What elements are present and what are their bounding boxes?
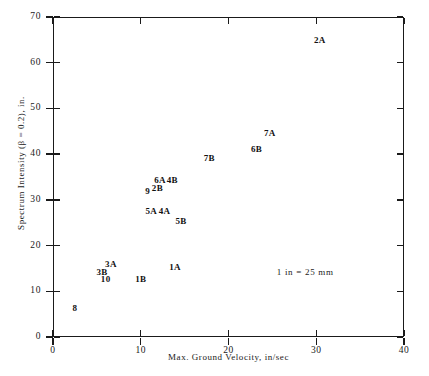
y-tick-mark-right — [397, 153, 403, 154]
data-point-label: 7B — [204, 153, 215, 163]
data-point-label: 9 — [145, 186, 150, 196]
data-point-label: 7A — [264, 128, 276, 138]
x-tick-mark — [52, 338, 53, 345]
y-tick-mark-inner — [54, 62, 60, 63]
y-tick-mark-inner — [54, 16, 60, 17]
x-tick-mark-top — [228, 18, 229, 24]
data-point-label: 8 — [73, 303, 78, 313]
x-tick-mark-top — [140, 18, 141, 24]
y-tick-mark — [46, 291, 53, 292]
y-tick-mark-right — [397, 108, 403, 109]
y-tick-mark — [46, 62, 53, 63]
data-point-label: 1B — [135, 274, 146, 284]
y-tick-mark — [46, 199, 53, 200]
y-tick-mark-inner — [54, 245, 60, 246]
y-tick-mark-right — [397, 62, 403, 63]
data-point-label: 2A — [314, 35, 326, 45]
x-tick-mark-inner — [403, 330, 404, 336]
y-tick-mark-right — [397, 199, 403, 200]
y-tick-mark-right — [397, 336, 403, 337]
x-tick-mark-inner — [52, 330, 53, 336]
x-tick-mark-top — [52, 18, 53, 24]
y-tick-mark-right — [397, 16, 403, 17]
y-tick-mark — [46, 153, 53, 154]
x-tick-mark — [228, 338, 229, 345]
y-tick-mark-inner — [54, 336, 60, 337]
data-point-label: 4A — [159, 206, 171, 216]
y-tick-label: 70 — [19, 11, 41, 21]
x-tick-mark-inner — [228, 330, 229, 336]
x-axis-title: Max. Ground Velocity, in/sec — [53, 352, 404, 362]
data-point-label: 5A — [145, 206, 157, 216]
y-tick-mark-right — [397, 291, 403, 292]
x-tick-mark-top — [403, 18, 404, 24]
y-tick-mark — [46, 108, 53, 109]
unit-conversion-note: 1 in = 25 mm — [277, 267, 334, 277]
y-tick-mark-inner — [54, 153, 60, 154]
data-point-label: 2B — [152, 183, 163, 193]
y-axis-title: Spectrum Intensity (β = 0.2), in. — [16, 48, 26, 278]
scatter-chart-figure: 010203040506070010203040 Spectrum Intens… — [0, 0, 429, 376]
x-tick-mark — [403, 338, 404, 345]
x-tick-mark-inner — [140, 330, 141, 336]
y-tick-label: 10 — [19, 285, 41, 295]
x-tick-mark — [140, 338, 141, 345]
y-tick-mark-right — [397, 245, 403, 246]
y-tick-mark-inner — [54, 199, 60, 200]
data-point-label: 5B — [176, 216, 187, 226]
y-tick-mark — [46, 245, 53, 246]
y-tick-label: 0 — [19, 331, 41, 341]
x-tick-mark-inner — [316, 330, 317, 336]
y-tick-mark-inner — [54, 291, 60, 292]
plot-area — [53, 17, 404, 337]
data-point-label: 6B — [251, 144, 262, 154]
data-point-label: 1A — [169, 262, 181, 272]
x-tick-mark — [316, 338, 317, 345]
data-point-label: 4B — [167, 175, 178, 185]
data-point-label: 10 — [101, 274, 111, 284]
x-tick-mark-top — [316, 18, 317, 24]
y-tick-mark-inner — [54, 108, 60, 109]
